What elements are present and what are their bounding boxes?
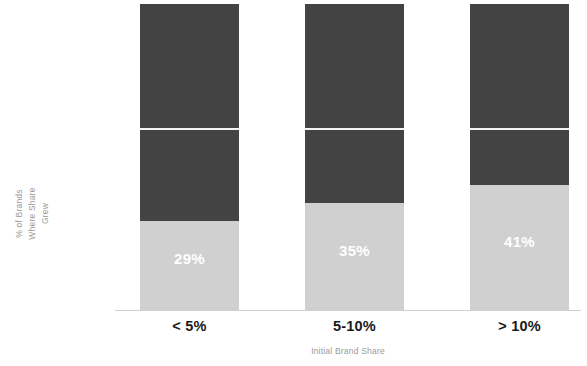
x-axis-line: [115, 310, 581, 311]
bar-group-1[interactable]: 29%: [140, 4, 239, 310]
bar-segment-divider-1: [140, 128, 239, 130]
bar-segment-remainder-1: [140, 4, 239, 221]
bar-value-label-2: 35%: [305, 242, 404, 259]
x-axis-title: Initial Brand Share: [115, 346, 581, 356]
x-axis-category-label-1: < 5%: [140, 318, 239, 334]
plot-area: 29% 35% 41%: [115, 0, 581, 311]
x-axis-category-label-2: 5-10%: [305, 318, 404, 334]
x-axis-category-label-3: > 10%: [470, 318, 569, 334]
x-axis-category-labels: < 5% 5-10% > 10%: [115, 318, 581, 342]
bar-segment-remainder-2: [305, 4, 404, 203]
bar-group-3[interactable]: 41%: [470, 4, 569, 310]
bar-value-label-3: 41%: [470, 233, 569, 250]
bar-value-label-1: 29%: [140, 250, 239, 267]
bar-segment-divider-3: [470, 128, 569, 130]
stacked-bar-chart: % of Brands Where Share Grew 29% 35% 41%…: [0, 0, 587, 366]
bar-segment-divider-2: [305, 128, 404, 130]
bar-segment-remainder-3: [470, 4, 569, 185]
y-axis-title: % of Brands Where Share Grew: [0, 148, 120, 268]
y-axis-title-text: % of Brands Where Share Grew: [13, 154, 52, 274]
bar-group-2[interactable]: 35%: [305, 4, 404, 310]
